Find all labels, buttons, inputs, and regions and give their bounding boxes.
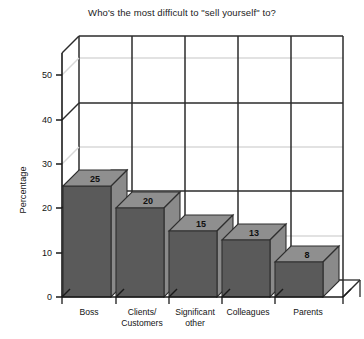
bar-value-label: 8 [304, 250, 309, 260]
y-tick-label: 40 [42, 115, 52, 125]
y-axis-tick-labels: 0 10 20 30 40 50 [42, 70, 52, 302]
x-category-label: Colleagues [227, 307, 270, 317]
y-tick-label: 0 [47, 292, 52, 302]
y-tick-label: 50 [42, 70, 52, 80]
bar-value-label: 20 [143, 196, 153, 206]
bar-chart-plot: 25 20 15 13 8 [0, 0, 364, 339]
x-axis-tick-stubs [62, 297, 343, 304]
bar-value-label: 15 [196, 219, 206, 229]
chart-container: Who's the most difficult to "sell yourse… [0, 0, 364, 339]
x-category-label-line2: Customers [121, 318, 163, 328]
y-tick-label: 20 [42, 203, 52, 213]
x-category-label: Parents [293, 307, 323, 317]
y-tick-label: 10 [42, 248, 52, 258]
y-axis-title: Percentage [18, 167, 28, 214]
bar-value-label: 25 [90, 174, 100, 184]
x-category-label: Significant [175, 307, 215, 317]
y-axis-ticks [56, 75, 62, 297]
x-category-label-line2: other [185, 318, 205, 328]
y-tick-label: 30 [42, 159, 52, 169]
x-axis-category-labels: Boss Clients/ Customers Significant othe… [79, 307, 322, 328]
bar-value-label: 13 [249, 228, 259, 238]
bar-column[interactable]: 8 [275, 246, 339, 297]
x-category-label: Boss [79, 307, 98, 317]
x-category-label: Clients/ [128, 307, 157, 317]
